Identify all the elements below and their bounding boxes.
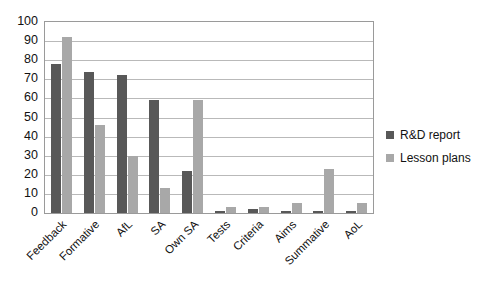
bar-own-sa-r-d-report [182, 171, 192, 213]
y-axis-tick-60: 60 [0, 91, 38, 104]
bar-summative-lesson-plans [324, 169, 334, 213]
legend-item-r-d-report: R&D report [386, 129, 482, 141]
bar-own-sa-lesson-plans [193, 100, 203, 213]
legend-swatch-icon [386, 131, 394, 139]
y-axis-tick-labels: 1009080706050403020100 [0, 21, 38, 212]
y-axis-tick-50: 50 [0, 110, 38, 123]
y-axis-tick-70: 70 [0, 72, 38, 85]
plot-area [44, 21, 374, 214]
chart-legend: R&D reportLesson plans [386, 129, 482, 175]
bar-aol-r-d-report [346, 211, 356, 213]
bar-formative-r-d-report [84, 72, 94, 213]
bar-chart: 1009080706050403020100 FeedbackFormative… [0, 0, 484, 289]
y-axis-tick-10: 10 [0, 187, 38, 200]
y-axis-tick-40: 40 [0, 129, 38, 142]
bar-feedback-lesson-plans [62, 37, 72, 213]
bar-tests-r-d-report [215, 211, 225, 213]
bar-feedback-r-d-report [51, 64, 61, 213]
y-axis-tick-90: 90 [0, 34, 38, 47]
bar-aol-lesson-plans [357, 203, 367, 213]
legend-label: Lesson plans [400, 152, 471, 164]
bar-criteria-r-d-report [248, 209, 258, 213]
legend-swatch-icon [386, 154, 394, 162]
legend-item-lesson-plans: Lesson plans [386, 152, 482, 164]
x-axis-tick-labels: FeedbackFormativeAfLSAOwn SATestsCriteri… [44, 214, 372, 286]
y-axis-tick-100: 100 [0, 15, 38, 28]
legend-label: R&D report [400, 129, 460, 141]
y-axis-tick-80: 80 [0, 53, 38, 66]
y-axis-tick-20: 20 [0, 168, 38, 181]
bar-aims-r-d-report [281, 211, 291, 213]
bar-aims-lesson-plans [292, 203, 302, 213]
bar-criteria-lesson-plans [259, 207, 269, 213]
bar-sa-lesson-plans [160, 188, 170, 213]
bar-afl-lesson-plans [128, 156, 138, 213]
bars-layer [45, 22, 373, 213]
bar-tests-lesson-plans [226, 207, 236, 213]
bar-afl-r-d-report [117, 75, 127, 213]
bar-formative-lesson-plans [95, 125, 105, 213]
bar-summative-r-d-report [313, 211, 323, 213]
y-axis-tick-30: 30 [0, 148, 38, 161]
y-axis-tick-0: 0 [0, 206, 38, 219]
bar-sa-r-d-report [149, 100, 159, 213]
